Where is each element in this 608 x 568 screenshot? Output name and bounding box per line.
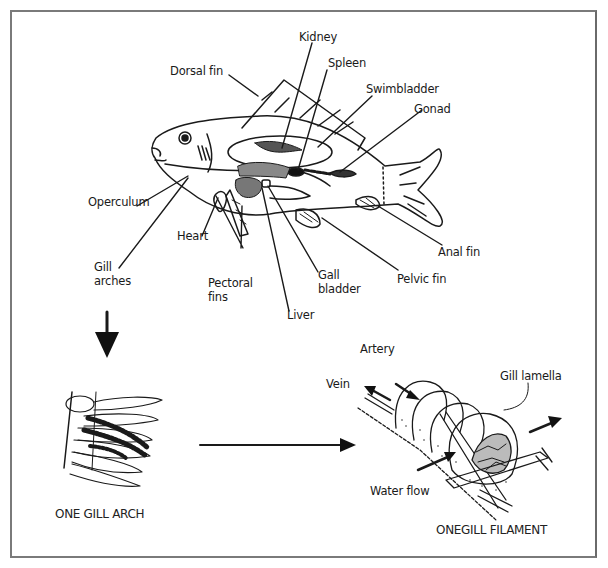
label-kidney: Kidney [299,30,337,44]
label-water-flow: Water flow [370,484,429,498]
label-gill-lamella: Gill lamella [500,369,562,383]
label-dorsal-fin: Dorsal fin [170,64,223,78]
label-operculum: Operculum [88,195,149,209]
label-gill-arches: Gill arches [94,260,131,288]
pelvic-fin-shape [296,209,320,228]
caption-one-gill-filament: ONEGILL FILAMENT [436,523,547,537]
gut-loop [270,186,310,199]
label-anal-fin: Anal fin [438,245,480,259]
kidney-shape [255,141,302,152]
anal-fin-shape [356,197,380,210]
label-pectoral-fins: Pectoral fins [208,276,253,304]
label-heart: Heart [177,229,208,243]
down-arrow [95,312,119,358]
label-spleen: Spleen [328,56,366,70]
label-vein: Vein [326,377,350,391]
intestine-shape [238,162,290,178]
gall-bladder-shape [262,180,270,187]
label-swimbladder: Swimbladder [366,82,439,96]
right-arrow [200,438,356,452]
fish-drawing [152,80,442,236]
spleen-shape [288,168,304,176]
label-gonad: Gonad [414,102,451,116]
gill-filament-drawing [358,381,562,520]
label-artery: Artery [360,342,395,356]
label-liver: Liver [287,308,314,322]
gill-arch-drawing [64,392,162,486]
label-pelvic-fin: Pelvic fin [397,272,446,286]
caption-one-gill-arch: ONE GILL ARCH [55,507,144,521]
dorsal-fin-shape [242,80,365,150]
anatomy-diagram [0,0,608,568]
label-gall-bladder: Gall bladder [318,268,361,296]
gonad-shape [330,170,356,177]
liver-shape [235,177,262,197]
